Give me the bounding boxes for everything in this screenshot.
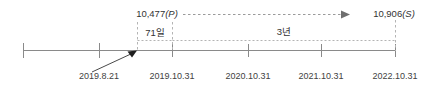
value-label-start: 10,477(P) bbox=[136, 8, 178, 19]
tick-label-2019-08-21: 2019.8.21 bbox=[79, 71, 119, 82]
span-label-short: 71일 bbox=[145, 27, 165, 38]
date-callout-arrow-head bbox=[128, 51, 138, 58]
value-label-end: 10,906(S) bbox=[373, 8, 415, 19]
value-start-number: 10,477 bbox=[136, 8, 165, 19]
tick-label-2019-10-31: 2019.10.31 bbox=[149, 71, 194, 82]
value-change-arrow-head bbox=[341, 11, 350, 19]
tick-label-2022-10-31: 2022.10.31 bbox=[372, 71, 417, 82]
span-label-long: 3년 bbox=[277, 26, 291, 37]
timeline-figure: 10,477(P) 10,906(S) 71일 3년 2019.8.21 201… bbox=[0, 0, 441, 89]
date-callout-arrow-line bbox=[92, 53, 133, 72]
tick-label-2021-10-31: 2021.10.31 bbox=[298, 71, 343, 82]
tick-label-2020-10-31: 2020.10.31 bbox=[225, 71, 270, 82]
value-start-symbol: (P) bbox=[165, 8, 178, 19]
value-end-symbol: (S) bbox=[402, 8, 415, 19]
value-end-number: 10,906 bbox=[373, 8, 402, 19]
